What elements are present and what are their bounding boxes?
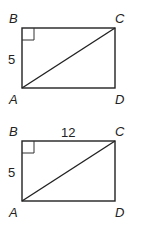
vertex-label-a: A: [8, 205, 18, 220]
diagram-canvas: B C A D 5 B C A D 5 12: [0, 0, 141, 232]
vertex-label-c: C: [115, 124, 125, 139]
right-angle-marker: [22, 141, 34, 153]
side-length-bc: 12: [61, 125, 75, 140]
diagonal-ac: [22, 28, 115, 88]
vertex-label-b: B: [9, 124, 18, 139]
rectangle-figure-1: B C A D 5: [8, 11, 125, 107]
diagonal-ac: [22, 141, 115, 201]
right-angle-marker: [22, 28, 34, 40]
side-length-ab: 5: [8, 52, 15, 67]
vertex-label-b: B: [9, 11, 18, 26]
vertex-label-d: D: [115, 205, 124, 220]
side-length-ab: 5: [8, 165, 15, 180]
vertex-label-c: C: [115, 11, 125, 26]
vertex-label-d: D: [115, 92, 124, 107]
vertex-label-a: A: [8, 92, 18, 107]
rectangle-figure-2: B C A D 5 12: [8, 124, 125, 220]
